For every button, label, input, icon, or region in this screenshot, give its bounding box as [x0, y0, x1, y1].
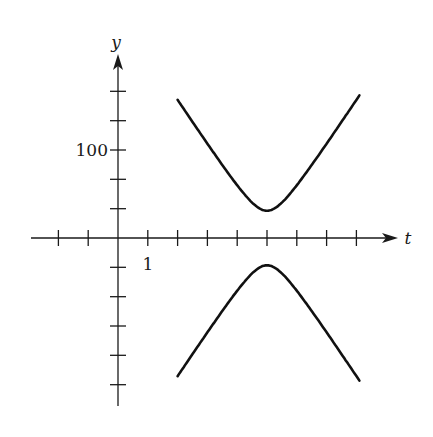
- x-axis: [31, 230, 398, 246]
- upper-branch-curve: [178, 95, 360, 210]
- x-axis-label: t: [405, 228, 412, 248]
- y-tick-label-100: 100: [76, 140, 108, 160]
- hyperbola-chart: y t 100 1: [0, 0, 433, 437]
- lower-branch-curve: [178, 265, 360, 380]
- y-axis: [110, 54, 126, 406]
- y-axis-label: y: [110, 32, 121, 52]
- x-tick-label-1: 1: [143, 254, 154, 274]
